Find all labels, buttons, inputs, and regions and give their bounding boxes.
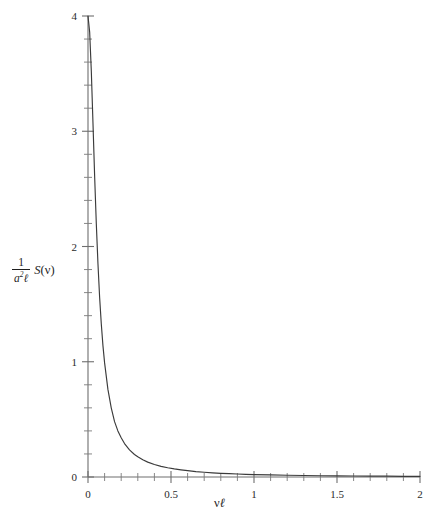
y-axis-title-fraction: 1 a2ℓ (12, 256, 30, 285)
x-axis-title-length-symbol: ℓ (220, 496, 225, 510)
denominator-length-symbol: ℓ (24, 272, 29, 284)
function-close-paren: ) (50, 263, 54, 277)
plot-figure: 00.511.52 01234 (0, 0, 439, 526)
y-axis-tick-labels: 01234 (72, 10, 78, 483)
y-axis-tick-label: 4 (72, 10, 78, 22)
y-axis-title-function: S(ν) (34, 263, 54, 278)
y-axis-tick-label: 2 (72, 241, 78, 253)
x-axis-title: νℓ (0, 496, 439, 511)
fraction-denominator: a2ℓ (12, 270, 30, 284)
fraction-numerator: 1 (15, 256, 27, 269)
y-axis-tick-label: 0 (72, 471, 78, 483)
y-axis-tick-label: 3 (72, 125, 78, 137)
y-axis-tick-label: 1 (72, 356, 78, 368)
y-axis-title: 1 a2ℓ S(ν) (12, 256, 55, 285)
data-curve-line (88, 16, 420, 476)
